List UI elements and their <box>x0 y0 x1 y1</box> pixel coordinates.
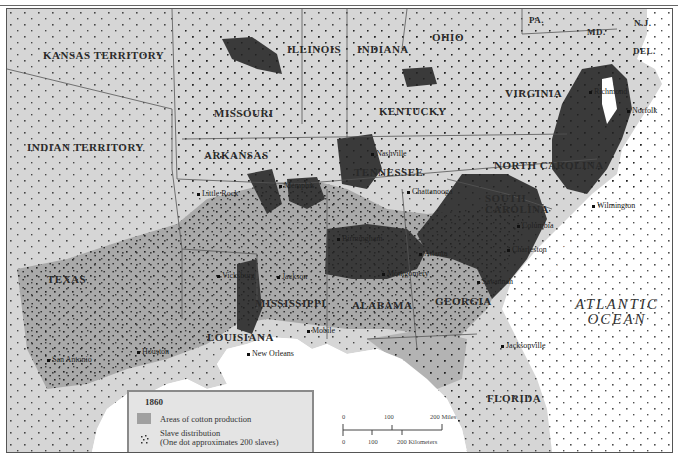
city-san-antonio: San Antonio <box>47 355 92 364</box>
dot-cluster-icon <box>140 434 150 444</box>
region-nj: N.J. <box>634 18 652 28</box>
region-texas: TEXAS <box>47 273 86 285</box>
legend-slave-label: Slave distribution (One dot approximates… <box>160 429 279 447</box>
city-savannah: Savannah <box>477 277 513 286</box>
region-missouri: MISSOURI <box>214 107 274 119</box>
city-montgomery: Montgomery <box>382 269 429 278</box>
region-alabama: ALABAMA <box>352 299 412 311</box>
city-houston: Houston <box>137 347 169 356</box>
city-birmingham: Birmingham <box>337 234 382 243</box>
city-mobile: Mobile <box>307 326 335 335</box>
region-north-carolina: NORTH CAROLINA <box>494 159 604 171</box>
city-chattanooga: Chattanooga <box>407 187 452 196</box>
city-jackson: Jackson <box>277 272 307 281</box>
map-canvas <box>7 9 672 452</box>
region-louisiana: LOUISIANA <box>207 331 274 343</box>
region-kansas-territory: KANSAS TERRITORY <box>43 49 164 61</box>
region-illinois: ILLINOIS <box>287 43 341 55</box>
region-indiana: INDIANA <box>357 43 409 55</box>
city-columbia: Columbia <box>517 221 554 230</box>
region-kentucky: KENTUCKY <box>379 105 447 117</box>
region-ohio: OHIO <box>432 31 464 43</box>
region-arkansas: ARKANSAS <box>204 149 269 161</box>
city-richmond: Richmond <box>589 87 627 96</box>
region-pa: PA. <box>529 15 544 25</box>
map-legend: 1860 Areas of cotton production Slave di… <box>127 390 314 453</box>
region-del: DEL. <box>633 46 656 56</box>
legend-cotton-label: Areas of cotton production <box>160 414 251 424</box>
city-jacksonville: Jacksonville <box>501 341 546 350</box>
cotton-swatch-icon <box>137 413 151 424</box>
region-md: MD. <box>587 27 606 37</box>
city-memphis: Memphis <box>279 181 314 190</box>
city-norfolk: Norfolk <box>627 106 657 115</box>
region-tennessee: TENNESSEE <box>354 166 423 178</box>
city-wilmington: Wilmington <box>592 201 635 210</box>
region-florida: FLORIDA <box>487 392 541 404</box>
region-virginia: VIRGINIA <box>505 87 562 99</box>
region-georgia: GEORGIA <box>435 295 492 307</box>
city-nashville: Nashville <box>371 149 407 158</box>
region-indian-territory: INDIAN TERRITORY <box>27 141 144 153</box>
legend-year: 1860 <box>145 397 163 407</box>
atlantic-ocean-label: ATLANTIC OCEAN <box>567 297 667 327</box>
city-vicksburg: Vicksburg <box>217 271 255 280</box>
scale-bar-line <box>342 423 447 437</box>
region-south-carolina: SOUTH CAROLINA <box>485 193 545 215</box>
map-frame: KANSAS TERRITORY INDIAN TERRITORY MISSOU… <box>6 8 673 453</box>
city-charleston: Charleston <box>507 245 547 254</box>
city-little-rock: Little Rock <box>197 189 238 198</box>
scale-bar: 0 100 200 Miles 0 100 200 Kilometers <box>342 413 462 453</box>
city-new-orleans: New Orleans <box>247 349 294 358</box>
top-strip <box>0 0 678 6</box>
region-mississippi: MISSISSIPPI <box>255 297 326 309</box>
city-atlanta: Atlanta <box>419 249 448 258</box>
